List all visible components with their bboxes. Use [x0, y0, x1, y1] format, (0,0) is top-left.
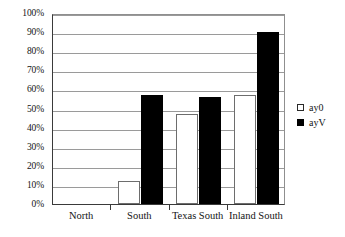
bar — [199, 97, 221, 204]
y-axis-tick-label: 60% — [27, 86, 44, 96]
bar — [176, 114, 198, 204]
legend-swatch-icon — [297, 119, 304, 126]
bars-layer — [53, 15, 284, 204]
y-axis: 100%90%80%70%60%50%40%30%20%10%0% — [0, 14, 48, 205]
bar-chart: 100%90%80%70%60%50%40%30%20%10%0% NorthS… — [0, 0, 345, 237]
legend-swatch-icon — [297, 104, 304, 111]
bar — [257, 32, 279, 204]
bar — [118, 181, 140, 204]
plot-area — [52, 14, 285, 205]
y-axis-tick-label: 0% — [32, 200, 44, 210]
x-axis-tick — [227, 205, 228, 210]
y-axis-tick-label: 90% — [27, 28, 44, 38]
y-axis-tick-label: 40% — [27, 124, 44, 134]
bar — [234, 95, 256, 204]
legend-label: ay0 — [309, 103, 323, 113]
legend-item: ay0 — [297, 101, 345, 114]
y-axis-tick-label: 50% — [27, 105, 44, 115]
x-axis: NorthSouthTexas SouthInland South — [52, 211, 285, 231]
legend-label: ayV — [309, 118, 326, 128]
x-axis-label: Texas South — [172, 211, 223, 222]
y-axis-tick-label: 10% — [27, 181, 44, 191]
y-axis-tick-label: 20% — [27, 162, 44, 172]
x-axis-tick — [169, 205, 170, 210]
x-axis-label: Inland South — [229, 211, 283, 222]
y-axis-tick-label: 100% — [22, 9, 44, 19]
y-axis-tick-label: 70% — [27, 67, 44, 77]
legend: ay0ayV — [297, 101, 345, 131]
x-axis-tick — [110, 205, 111, 210]
x-axis-label: South — [127, 211, 152, 222]
y-axis-tick-label: 30% — [27, 143, 44, 153]
y-axis-tick-label: 80% — [27, 47, 44, 57]
legend-item: ayV — [297, 116, 345, 129]
bar — [141, 95, 163, 204]
x-axis-label: North — [69, 211, 94, 222]
